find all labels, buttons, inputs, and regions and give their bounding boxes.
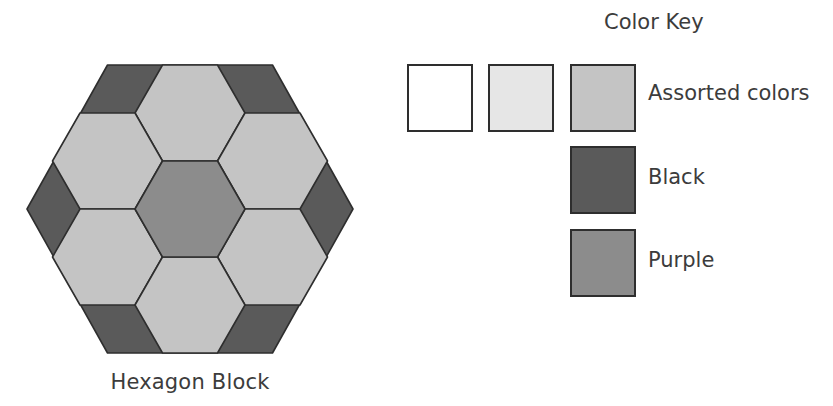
label-purple: Purple: [648, 248, 714, 272]
swatch-light-gray: [488, 64, 554, 132]
swatch-purple: [570, 229, 636, 297]
hexagon-block-diagram: [0, 0, 833, 406]
label-assorted-colors: Assorted colors: [648, 81, 810, 105]
label-black: Black: [648, 165, 705, 189]
swatch-assorted: [570, 64, 636, 132]
swatch-black: [570, 146, 636, 214]
color-key-title: Color Key: [604, 10, 704, 34]
swatch-white: [407, 64, 473, 132]
figure-caption: Hexagon Block: [90, 370, 290, 394]
